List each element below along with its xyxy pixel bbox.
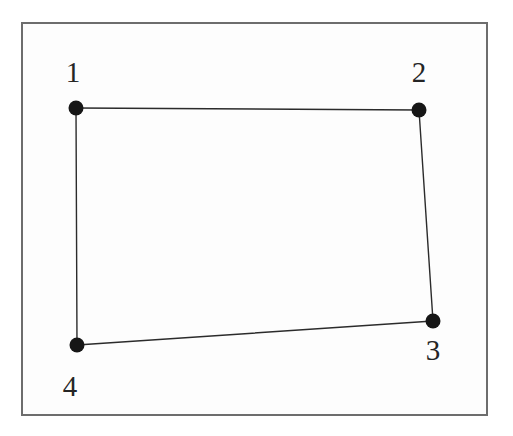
figure-container: 1 2 3 4: [0, 0, 513, 436]
vertex-label-2: 2: [412, 56, 427, 88]
vertex-dot-4: [70, 338, 85, 353]
quadrilateral-figure: 1 2 3 4: [0, 0, 513, 436]
vertex-label-3: 3: [426, 334, 441, 366]
vertex-label-4: 4: [63, 370, 78, 402]
edge-4-1: [76, 108, 77, 345]
vertex-dot-1: [69, 101, 84, 116]
vertex-dot-3: [426, 314, 441, 329]
vertex-dot-2: [412, 103, 427, 118]
vertex-label-1: 1: [66, 56, 81, 88]
